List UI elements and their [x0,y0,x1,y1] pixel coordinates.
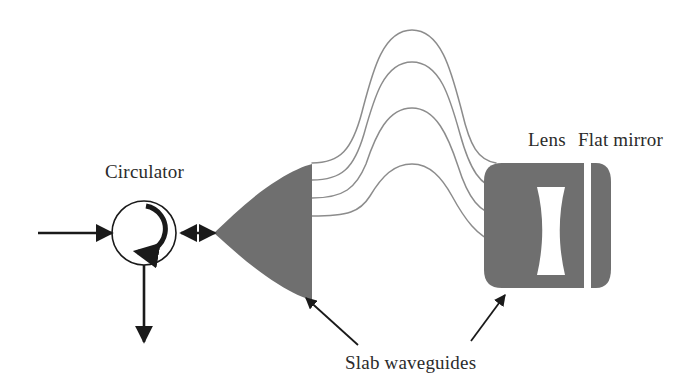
lens-label: Lens [528,129,566,150]
optical-circuit-diagram: Circulator Lens Flat mirror Slab wavegui… [0,0,699,386]
flat-mirror-label: Flat mirror [578,129,664,150]
circulator-symbol [112,201,176,265]
circulator-label: Circulator [105,161,185,182]
slab-waveguides-label: Slab waveguides [345,352,476,373]
diagram-canvas: Circulator Lens Flat mirror Slab wavegui… [0,0,699,386]
right-slab-body [484,163,584,288]
right-slab-waveguide-block [484,163,584,288]
flat-mirror-strip [591,163,611,288]
